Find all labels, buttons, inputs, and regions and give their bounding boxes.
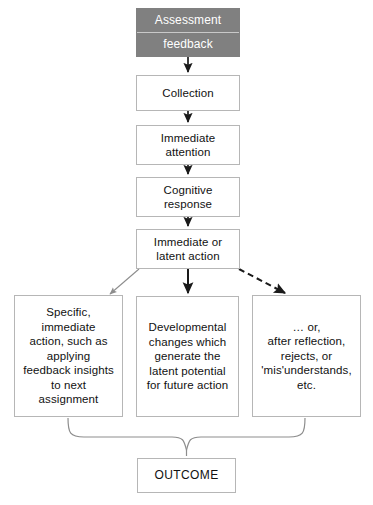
connector-immediate-latent-to-specific-action — [110, 269, 139, 294]
node-assessment-feedback-line2: feedback — [137, 32, 239, 56]
node-immediate-attention: Immediateattention — [136, 125, 240, 165]
node-cognitive-response: Cognitiveresponse — [136, 177, 240, 217]
node-reflection-rejects-text: … or,after reflection,rejects, or'mis'un… — [253, 320, 360, 393]
connector-brace-to-outcome — [68, 418, 305, 456]
node-developmental-changes: Developmentalchanges whichgenerate thela… — [136, 296, 239, 417]
node-collection-text: Collection — [137, 86, 239, 101]
diagram-canvas: Assessment feedback Collection Immediate… — [0, 0, 373, 505]
node-developmental-changes-text: Developmentalchanges whichgenerate thela… — [137, 320, 238, 393]
node-assessment-feedback-line1: Assessment — [137, 9, 239, 32]
node-collection: Collection — [136, 75, 240, 111]
connector-immediate-latent-to-reflection-rejects — [239, 269, 285, 293]
node-immediate-latent-action-text: Immediate orlatent action — [137, 235, 239, 264]
node-specific-action: Specific,immediateaction, such asapplyin… — [14, 295, 123, 417]
node-specific-action-text: Specific,immediateaction, such asapplyin… — [15, 305, 122, 407]
node-outcome: OUTCOME — [137, 458, 236, 493]
node-immediate-attention-text: Immediateattention — [137, 131, 239, 160]
node-outcome-text: OUTCOME — [138, 468, 235, 483]
node-immediate-latent-action: Immediate orlatent action — [136, 229, 240, 269]
node-assessment-feedback: Assessment feedback — [136, 8, 240, 57]
node-reflection-rejects: … or,after reflection,rejects, or'mis'un… — [252, 295, 361, 417]
node-cognitive-response-text: Cognitiveresponse — [137, 183, 239, 212]
